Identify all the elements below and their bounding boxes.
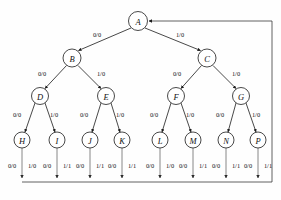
- edge-label-c-g: 1/0: [232, 70, 240, 77]
- node-a[interactable]: A: [129, 12, 148, 31]
- edge-g-p: [246, 103, 256, 132]
- node-k[interactable]: K: [114, 132, 130, 148]
- leaf-output-h-left: 0/0: [8, 162, 16, 169]
- leaf-output-m-right: 1/1: [199, 162, 207, 169]
- edge-label-a-b: 0/0: [93, 31, 101, 38]
- edge-e-k: [111, 103, 120, 132]
- node-c[interactable]: C: [198, 49, 216, 67]
- node-group: A B C D E F G: [14, 12, 266, 149]
- node-n[interactable]: N: [218, 132, 234, 148]
- edge-label-c-f: 0/0: [173, 70, 181, 77]
- edge-d-i: [45, 103, 55, 132]
- leaf-output-h-right: 1/0: [28, 162, 36, 169]
- node-l[interactable]: L: [152, 132, 168, 148]
- leaf-output-p-right: 1/1: [264, 162, 272, 169]
- edge-label-b-d: 0/0: [38, 70, 46, 77]
- leaf-output-i-right: 1/1: [63, 162, 71, 169]
- edge-d-h: [25, 103, 35, 132]
- node-c-label: C: [204, 54, 210, 64]
- edge-label-e-k: 1/0: [116, 111, 124, 118]
- node-f-label: F: [172, 92, 179, 102]
- node-p-label: P: [254, 136, 260, 146]
- node-p[interactable]: P: [250, 132, 266, 148]
- edge-label-d-h: 0/0: [13, 111, 21, 118]
- node-j[interactable]: J: [82, 132, 98, 148]
- edge-label-d-i: 1/0: [50, 111, 58, 118]
- edge-g-n: [228, 103, 236, 132]
- edge-a-c: [145, 28, 201, 51]
- node-e[interactable]: E: [98, 88, 115, 105]
- edge-label-f-l: 0/0: [150, 111, 158, 118]
- node-b-label: B: [69, 54, 74, 64]
- edge-f-l: [162, 103, 171, 132]
- node-h-label: H: [18, 136, 26, 146]
- edge-label-b-e: 1/0: [97, 70, 105, 77]
- edge-label-f-m: 1/0: [186, 111, 194, 118]
- leaf-output-j-left: 0/0: [76, 162, 84, 169]
- edge-b-d: [45, 66, 67, 89]
- edge-a-b: [79, 28, 132, 51]
- node-d[interactable]: D: [32, 88, 49, 105]
- leaf-drop-group: [22, 148, 258, 178]
- node-i[interactable]: I: [49, 132, 65, 148]
- node-g-label: G: [238, 92, 244, 102]
- node-e-label: E: [102, 92, 109, 102]
- edge-f-m: [181, 103, 191, 132]
- node-g[interactable]: G: [233, 88, 250, 105]
- edge-label-group: 0/0 1/0 0/0 1/0 0/0 1/0 0/0 1/0 0/0 1/0 …: [13, 31, 260, 118]
- edge-e-j: [92, 103, 101, 132]
- node-f[interactable]: F: [168, 88, 185, 105]
- leaf-output-n-left: 0/0: [212, 162, 220, 169]
- node-m[interactable]: M: [185, 132, 201, 148]
- leaf-output-m-left: 0/0: [179, 162, 187, 169]
- node-h[interactable]: H: [14, 132, 30, 148]
- node-a-label: A: [134, 17, 141, 27]
- tree-svg-canvas: A B C D E F G: [0, 0, 281, 200]
- leaf-output-i-left: 0/0: [43, 162, 51, 169]
- leaf-output-k-left: 0/0: [108, 162, 116, 169]
- leaf-output-l-left: 0/0: [146, 162, 154, 169]
- edge-c-f: [181, 66, 202, 89]
- leaf-output-l-right: 1/0: [166, 162, 174, 169]
- edge-label-e-j: 0/0: [80, 111, 88, 118]
- leaf-output-label-group: 0/0 1/0 0/0 1/1 0/0 1/1 0/0 1/1 0/0 1/0 …: [8, 162, 272, 169]
- edge-label-g-p: 1/0: [252, 111, 260, 118]
- edge-label-a-c: 1/0: [176, 31, 184, 38]
- node-m-label: M: [188, 136, 197, 146]
- state-transition-diagram: A B C D E F G: [0, 0, 281, 200]
- leaf-output-k-right: 1/1: [128, 162, 136, 169]
- edge-label-g-n: 0/0: [216, 111, 224, 118]
- node-l-label: L: [157, 136, 163, 146]
- leaf-output-p-left: 0/0: [244, 162, 252, 169]
- leaf-output-n-right: 1/1: [232, 162, 240, 169]
- leaf-output-j-right: 1/1: [96, 162, 104, 169]
- node-d-label: D: [36, 92, 44, 102]
- node-b[interactable]: B: [63, 49, 81, 67]
